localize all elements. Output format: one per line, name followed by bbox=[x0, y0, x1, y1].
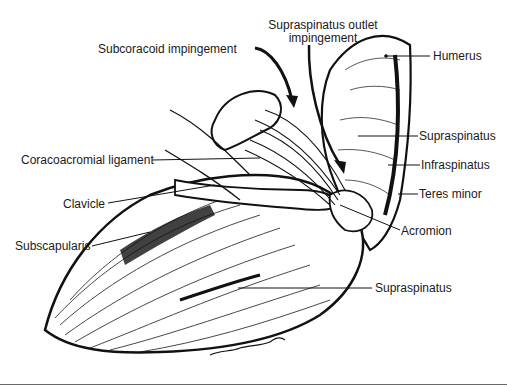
label-clavicle: Clavicle bbox=[63, 198, 105, 211]
label-coracoacromial-ligament: Coracoacromial ligament bbox=[21, 154, 154, 167]
label-subscapularis: Subscapularis bbox=[15, 240, 90, 253]
label-supraspinatus-upper: Supraspinatus bbox=[419, 130, 496, 143]
label-supraspinatus-outlet-line2: impingement bbox=[258, 32, 388, 45]
label-teres-minor: Teres minor bbox=[419, 188, 482, 201]
label-subcoracoid-impingement: Subcoracoid impingement bbox=[98, 43, 237, 56]
label-supraspinatus-lower: Supraspinatus bbox=[375, 282, 452, 295]
label-humerus: Humerus bbox=[433, 50, 482, 63]
bottom-rule bbox=[0, 384, 507, 385]
label-acromion: Acromion bbox=[401, 225, 452, 238]
label-infraspinatus: Infraspinatus bbox=[421, 159, 490, 172]
coracoid-shape bbox=[212, 91, 281, 150]
anatomy-figure: Subcoracoid impingement Supraspinatus ou… bbox=[0, 0, 507, 389]
